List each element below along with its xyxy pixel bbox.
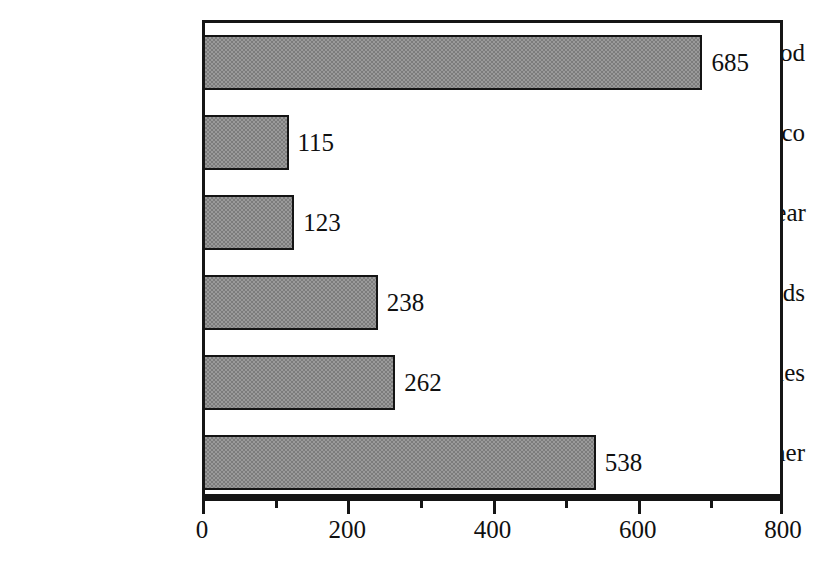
- bar-other[interactable]: [203, 435, 596, 490]
- bar-value-label: 123: [303, 210, 341, 235]
- bar-chart: Food Sweets, tobacco Clothing, footwear …: [0, 0, 815, 573]
- x-tick-major: [780, 501, 783, 514]
- bar-household-goods[interactable]: [203, 275, 378, 330]
- x-tick-label: 0: [196, 517, 209, 542]
- x-tick-major: [202, 501, 205, 514]
- x-tick-major: [493, 501, 496, 514]
- bar-value-label: 262: [404, 370, 442, 395]
- x-tick-minor: [420, 501, 423, 508]
- x-tick-label: 400: [474, 517, 512, 542]
- bar-sweets-tobacco[interactable]: [203, 115, 289, 170]
- bar-food[interactable]: [203, 35, 702, 90]
- x-tick-minor: [710, 501, 713, 508]
- x-axis: [202, 497, 783, 501]
- bar-clothing-footwear[interactable]: [203, 195, 294, 250]
- x-tick-minor: [565, 501, 568, 508]
- x-tick-label: 600: [619, 517, 657, 542]
- x-tick-major: [638, 501, 641, 514]
- bar-value-label: 115: [298, 130, 335, 155]
- x-tick-minor: [275, 501, 278, 508]
- x-tick-label: 200: [329, 517, 367, 542]
- bar-motor-vehicles[interactable]: [203, 355, 395, 410]
- plot-area: 685 115 123 238 262 538: [202, 20, 783, 497]
- bar-value-label: 538: [605, 450, 643, 475]
- x-tick-label: 800: [764, 517, 802, 542]
- x-tick-major: [347, 501, 350, 514]
- bar-value-label: 238: [387, 290, 425, 315]
- bar-value-label: 685: [711, 50, 749, 75]
